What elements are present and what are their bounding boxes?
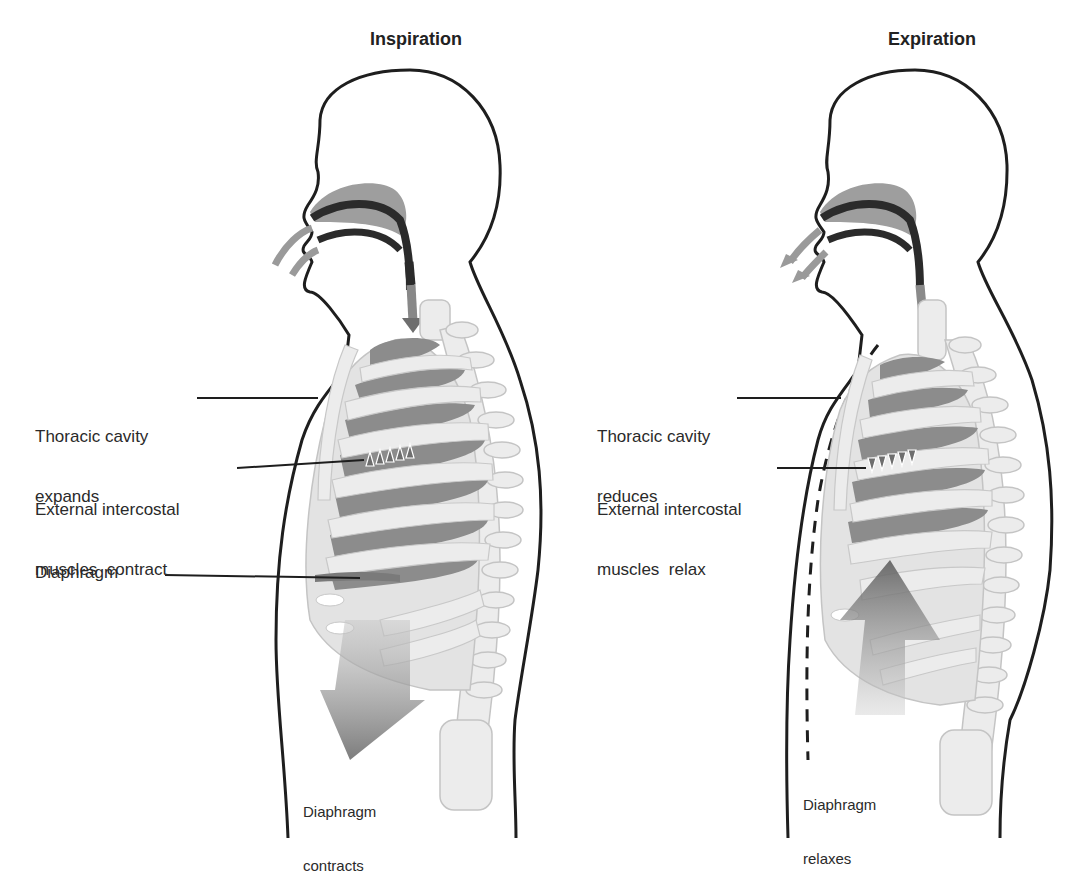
expiration-rib-cage [820, 354, 992, 705]
inspiration-oral-passage [318, 232, 400, 250]
inspiration-trachea [409, 262, 411, 285]
inspiration-intercostal-label: External intercostal muscles contract [35, 460, 180, 620]
inspiration-trachea-arrow [411, 285, 413, 322]
expiration-oral-passage [828, 232, 910, 250]
inspiration-diaphragm-action-label: Diaphragm contracts [303, 767, 376, 875]
expiration-intercostal-label: External intercostal muscles relax [597, 460, 742, 620]
expiration-diaphragm-action-label: Diaphragm relaxes [803, 760, 876, 875]
expiration-figure [737, 70, 1052, 838]
inspiration-figure [165, 70, 541, 838]
expiration-title: Expiration [888, 29, 976, 50]
inspiration-title: Inspiration [370, 29, 462, 50]
inspiration-diaphragm-label: Diaphragm [35, 563, 118, 583]
